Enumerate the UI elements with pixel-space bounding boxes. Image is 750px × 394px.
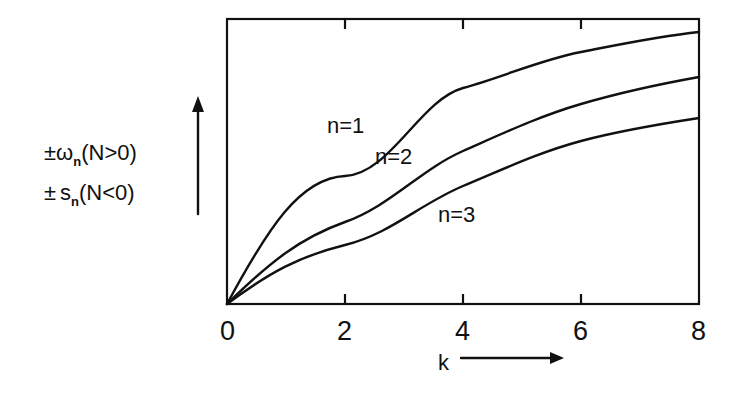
curve-n1 [227,32,699,304]
curve-label-n3: n=3 [438,202,475,227]
curve-label-n1: n=1 [327,113,364,138]
curve-label-n2: n=2 [375,144,412,169]
x-tick-4: 4 [455,316,470,346]
curve-n2 [227,77,699,304]
svg-text:±ωn(N>0): ±ωn(N>0) [44,140,137,169]
chart: n=1 n=2 n=3 0 2 4 6 8 k ±ωn(N>0) ±sn(N<0… [0,0,750,394]
svg-text:±sn(N<0): ±sn(N<0) [44,180,135,209]
x-tick-6: 6 [573,316,588,346]
x-axis-arrow-icon [461,352,564,364]
y-axis-arrow-icon [192,96,204,214]
x-tick-2: 2 [337,316,352,346]
x-tick-0: 0 [220,316,235,346]
y-axis-label: ±ωn(N>0) ±sn(N<0) [44,140,137,209]
x-axis-label: k [438,350,450,375]
x-tick-8: 8 [691,316,706,346]
x-tick-labels: 0 2 4 6 8 [220,316,706,346]
